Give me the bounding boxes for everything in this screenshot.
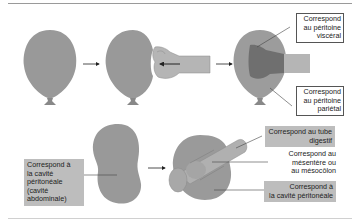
label-digestive-tube: Correspond au tube digestif — [265, 126, 335, 147]
balloon-icon — [24, 30, 77, 105]
leader-line — [270, 88, 292, 106]
label-visceral-peritoneum: Correspond au péritoine viscéral — [296, 13, 344, 43]
label-parietal-peritoneum: Correspond au péritoine pariétal — [296, 86, 344, 116]
cavity-shape-icon — [93, 124, 141, 204]
label-line: au mésocôlon — [270, 167, 336, 176]
label-line: abdominale) — [27, 195, 81, 204]
label-line: la cavité péritonéale — [267, 192, 333, 201]
label-mesentery: Correspond au mésentère ou au mésocôlon — [270, 150, 336, 176]
label-line: digestif — [268, 137, 332, 146]
fist-icon — [153, 47, 210, 79]
label-line: viscéral — [299, 32, 341, 41]
label-line: pariétal — [299, 105, 341, 114]
balloon-pushed-icon — [106, 30, 153, 105]
label-peritoneal-cavity-abdominal: Correspond à la cavité péritonéale (cavi… — [24, 159, 84, 206]
label-peritoneal-cavity: Correspond à la cavité péritonéale — [264, 181, 336, 202]
